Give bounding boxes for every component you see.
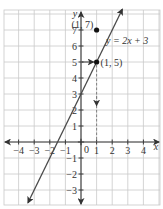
y-tick-label: 4: [72, 73, 77, 84]
point-label: (1, 5): [101, 57, 123, 69]
x-tick-label: −3: [29, 145, 40, 156]
y-tick-label: 6: [72, 41, 77, 52]
x-tick-label: 2: [110, 145, 115, 156]
x-tick-label: 3: [125, 145, 130, 156]
y-tick-label: −1: [66, 153, 77, 164]
data-point: [94, 59, 99, 64]
origin-label: 0: [84, 144, 89, 155]
x-tick-label: −4: [13, 145, 24, 156]
y-axis-label: y: [72, 8, 78, 19]
y-tick-label: 5: [72, 57, 77, 68]
x-axis-label: x: [153, 141, 159, 152]
y-tick-label: −2: [66, 169, 77, 180]
x-tick-label: 1: [94, 145, 99, 156]
point-label: (1, 7): [72, 19, 94, 31]
data-point: [94, 27, 99, 32]
y-tick-label: 1: [72, 121, 77, 132]
y-tick-label: 3: [72, 89, 77, 100]
x-tick-label: 4: [141, 145, 146, 156]
equation-label: y = 2x + 3: [105, 35, 148, 46]
y-tick-label: −3: [66, 185, 77, 196]
chart: −4−3−2−11234−3−2−112345670 (1, 7)(1, 5) …: [0, 0, 163, 209]
